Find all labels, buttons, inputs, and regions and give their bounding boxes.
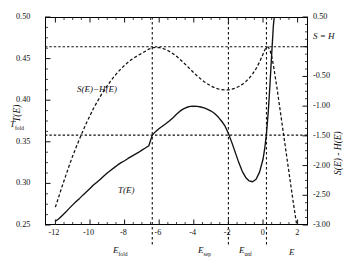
- y-tick-label-right: -0.50: [313, 72, 330, 80]
- e-unf-label: Eunf: [239, 245, 252, 257]
- x-tick-label: 2: [295, 229, 299, 237]
- x-tick-label: -8: [120, 229, 127, 237]
- y-tick-label-right: -1.00: [313, 102, 330, 110]
- y-axis-right-title: S(E) - H(E): [333, 131, 343, 175]
- x-tick-label: -4: [189, 229, 196, 237]
- reference-lines: [45, 17, 308, 247]
- e-sep-label: Esep: [198, 245, 211, 257]
- y-tick-label-right: -2.50: [313, 191, 330, 199]
- curve-entropy-minus-enthalpy: [55, 47, 296, 225]
- x-tick-label: -10: [83, 229, 94, 237]
- curve-temperature-label: T(E): [118, 185, 135, 195]
- s-equals-h-label: S = H: [313, 31, 335, 41]
- y-tick-label-right: -2.00: [313, 162, 330, 170]
- plot-canvas: [0, 0, 343, 267]
- curve-entropy-enthalpy-label: S(E)−H(E): [77, 84, 117, 94]
- y-tick-label-left: 0.40: [16, 96, 30, 104]
- y-tick-label-left: 0.25: [16, 221, 30, 229]
- e-fold-label: Efold: [113, 245, 128, 257]
- x-tick-label: 0: [261, 229, 265, 237]
- y-tick-label-right: -1.50: [313, 132, 330, 140]
- x-tick-label: -12: [48, 229, 59, 237]
- y-tick-label-right: -3.00: [313, 221, 330, 229]
- t-fold-label: Tfold: [10, 119, 24, 131]
- y-tick-label-left: 0.35: [16, 138, 30, 146]
- figure-root: 0.250.300.350.400.450.50 -3.00-2.50-2.00…: [0, 0, 343, 267]
- y-tick-label-right: 0.50: [313, 13, 327, 21]
- y-tick-label-left: 0.50: [16, 13, 30, 21]
- y-tick-label-left: 0.45: [16, 55, 30, 63]
- x-axis-title: E: [289, 247, 295, 257]
- x-tick-label: -6: [155, 229, 162, 237]
- y-tick-label-left: 0.30: [16, 179, 30, 187]
- x-tick-label: -2: [224, 229, 231, 237]
